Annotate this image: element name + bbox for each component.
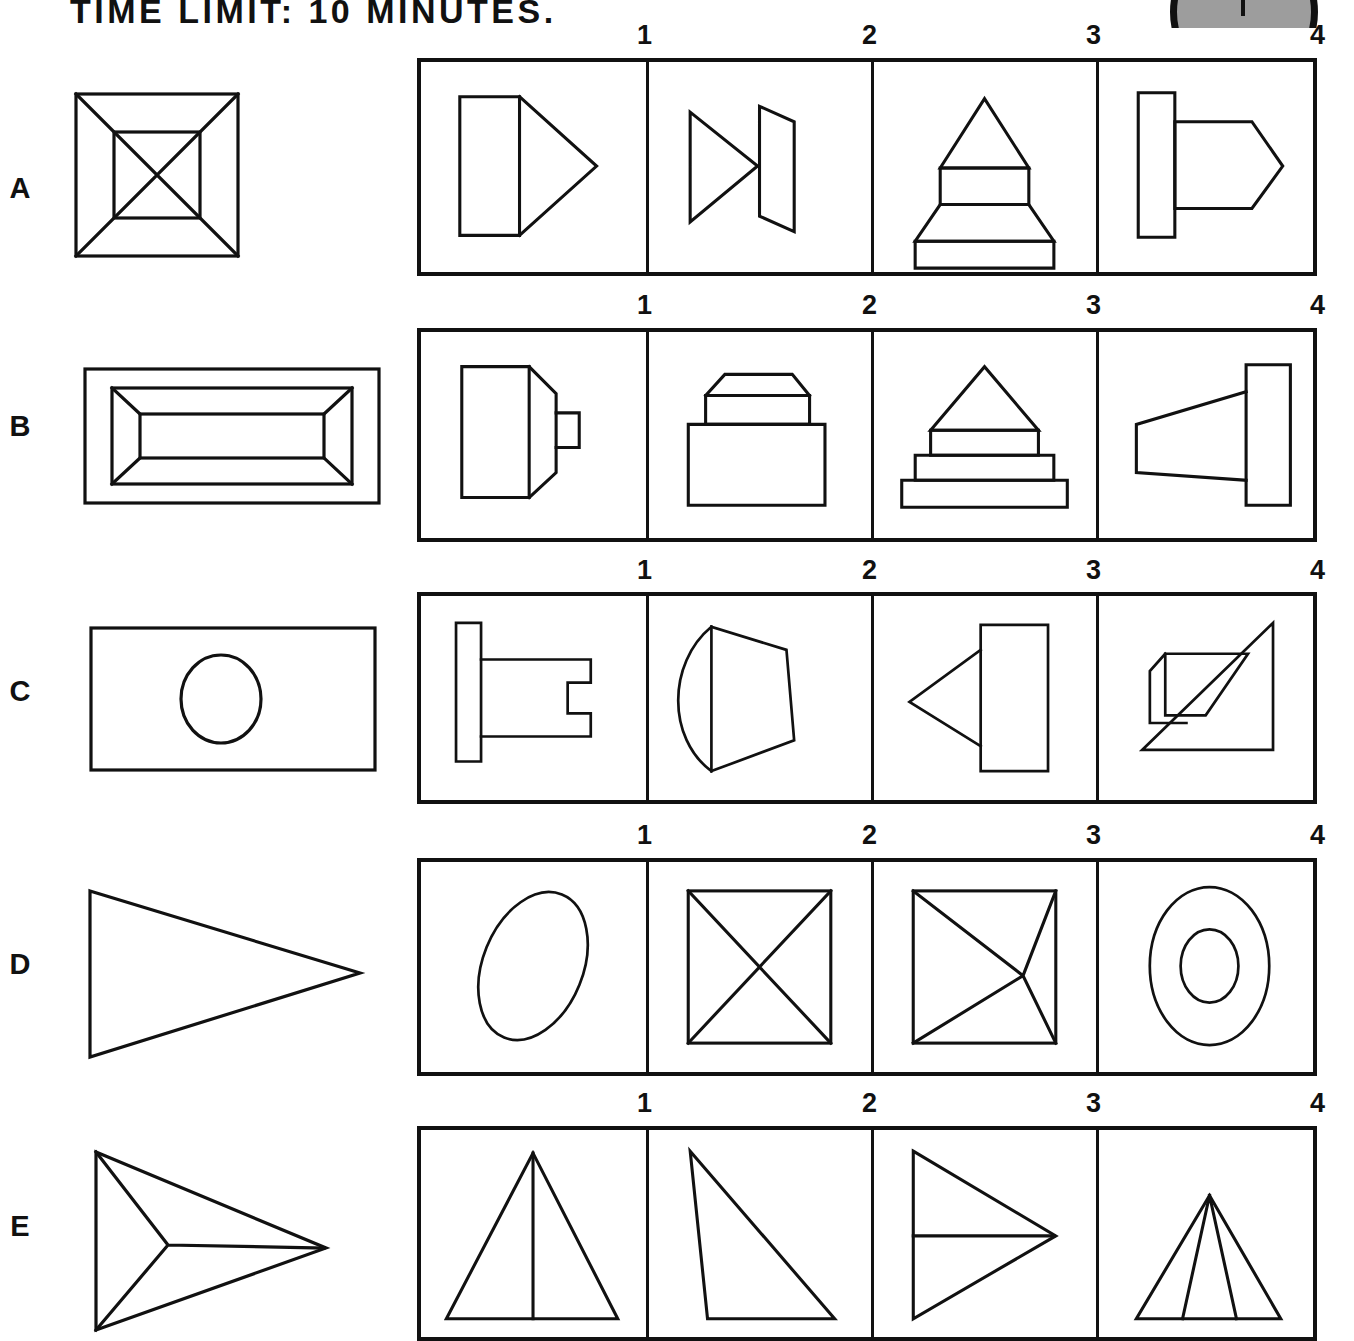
option-grid-a (417, 58, 1317, 276)
row-label-b: B (0, 410, 40, 443)
row-label-e: E (0, 1210, 40, 1243)
option-d3[interactable] (871, 862, 1096, 1072)
option-number-e3: 3 (1067, 1088, 1101, 1119)
option-number-d1: 1 (618, 820, 652, 851)
option-grid-e (417, 1126, 1317, 1341)
option-number-e4: 4 (1291, 1088, 1325, 1119)
option-number-a3: 3 (1067, 20, 1101, 51)
option-b4[interactable] (1096, 332, 1321, 538)
option-number-e2: 2 (843, 1088, 877, 1119)
option-number-d4: 4 (1291, 820, 1325, 851)
option-d4[interactable] (1096, 862, 1321, 1072)
option-e1[interactable] (421, 1130, 646, 1337)
option-e3[interactable] (871, 1130, 1096, 1337)
stimulus-d (82, 885, 372, 1065)
option-b2[interactable] (646, 332, 871, 538)
option-d1[interactable] (421, 862, 646, 1072)
option-number-a2: 2 (843, 20, 877, 51)
option-a4[interactable] (1096, 62, 1321, 272)
option-e2[interactable] (646, 1130, 871, 1337)
option-number-b3: 3 (1067, 290, 1101, 321)
row-label-a: A (0, 172, 40, 205)
row-label-c: C (0, 675, 40, 708)
clock-hand (1241, 0, 1245, 16)
option-a3[interactable] (871, 62, 1096, 272)
option-c4[interactable] (1096, 596, 1321, 800)
option-c3[interactable] (871, 596, 1096, 800)
stimulus-c (88, 625, 378, 773)
option-grid-c (417, 592, 1317, 804)
option-a1[interactable] (421, 62, 646, 272)
option-number-c4: 4 (1291, 555, 1325, 586)
stimulus-e (70, 1140, 340, 1336)
worksheet-page: TIME LIMIT: 10 MINUTES. A 1 2 3 4 (0, 0, 1354, 1341)
option-number-c1: 1 (618, 555, 652, 586)
option-number-b2: 2 (843, 290, 877, 321)
stimulus-a (72, 90, 242, 260)
option-number-d2: 2 (843, 820, 877, 851)
option-number-d3: 3 (1067, 820, 1101, 851)
option-a2[interactable] (646, 62, 871, 272)
option-number-e1: 1 (618, 1088, 652, 1119)
option-c2[interactable] (646, 596, 871, 800)
option-grid-b (417, 328, 1317, 542)
option-b3[interactable] (871, 332, 1096, 538)
option-c1[interactable] (421, 596, 646, 800)
stimulus-b (82, 366, 382, 506)
option-number-c2: 2 (843, 555, 877, 586)
option-e4[interactable] (1096, 1130, 1321, 1337)
option-number-c3: 3 (1067, 555, 1101, 586)
row-label-d: D (0, 948, 40, 981)
option-number-a1: 1 (618, 20, 652, 51)
option-grid-d (417, 858, 1317, 1076)
option-b1[interactable] (421, 332, 646, 538)
option-d2[interactable] (646, 862, 871, 1072)
option-number-a4: 4 (1291, 20, 1325, 51)
option-number-b1: 1 (618, 290, 652, 321)
option-number-b4: 4 (1291, 290, 1325, 321)
page-title: TIME LIMIT: 10 MINUTES. (70, 0, 557, 31)
